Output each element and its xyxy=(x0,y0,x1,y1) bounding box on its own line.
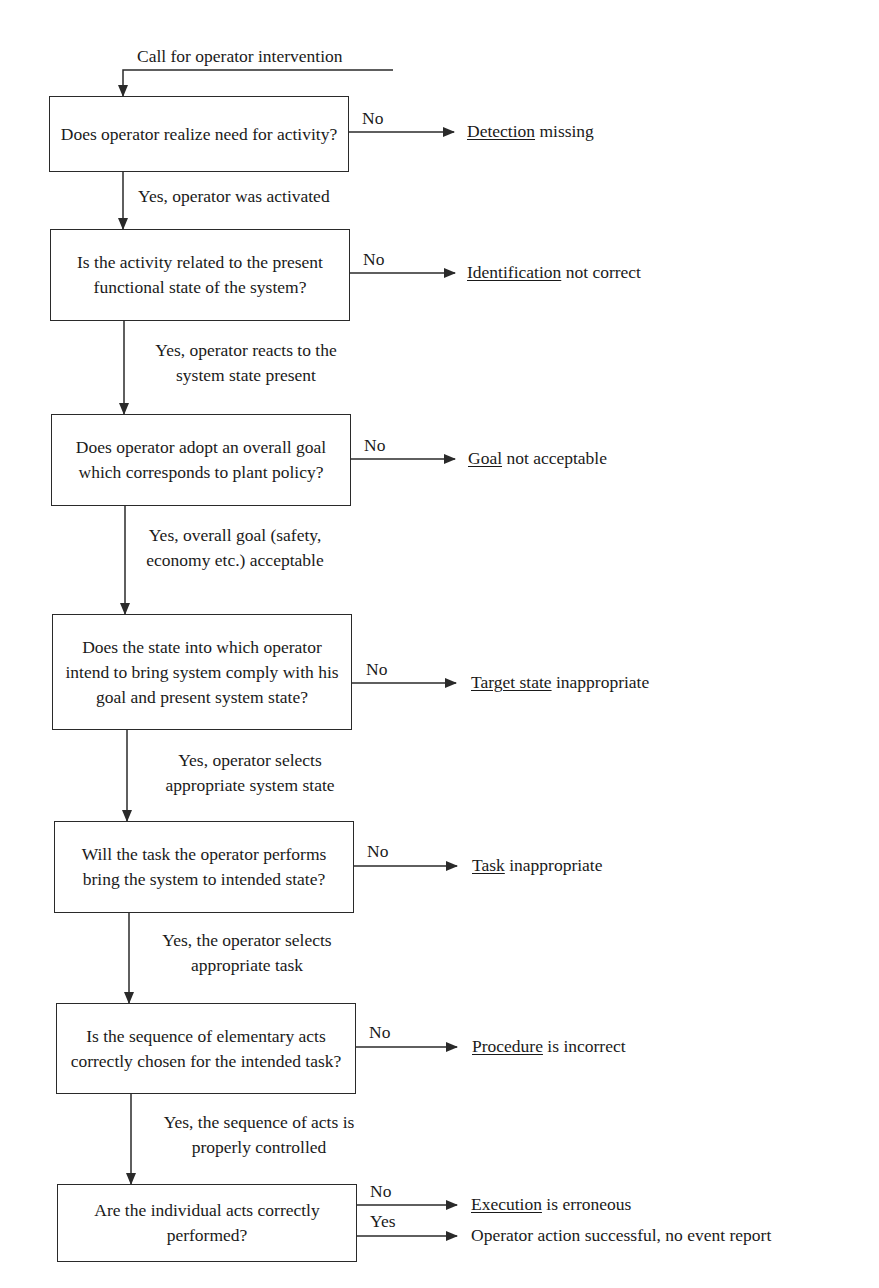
flowchart: Call for operator intervention Does oper… xyxy=(0,0,879,1288)
decision-box-target-state: Does the state into which operator inten… xyxy=(52,614,352,730)
question-text: Is the activity related to the present f… xyxy=(59,250,341,300)
no-label: No xyxy=(367,839,388,864)
decision-box-task: Will the task the operator performs brin… xyxy=(54,821,354,913)
yes-label: Yes, the operator selects appropriate ta… xyxy=(142,928,352,978)
yes-label: Yes, the sequence of acts is properly co… xyxy=(144,1110,374,1160)
no-label: No xyxy=(369,1020,390,1045)
outcome-goal-not-acceptable: Goal not acceptable xyxy=(468,446,607,471)
outcome-target-state-inappropriate: Target state inappropriate xyxy=(471,670,649,695)
outcome-execution-erroneous: Execution is erroneous xyxy=(471,1192,631,1217)
decision-box-detection: Does operator realize need for activity? xyxy=(49,96,349,172)
yes-label: Yes, operator reacts to the system state… xyxy=(138,338,354,388)
entry-label: Call for operator intervention xyxy=(137,44,343,69)
yes-label-final: Yes xyxy=(370,1209,395,1234)
outcome-task-inappropriate: Task inappropriate xyxy=(472,853,602,878)
no-label: No xyxy=(363,247,384,272)
yes-label: Yes, overall goal (safety, economy etc.)… xyxy=(140,523,330,573)
outcome-detection-missing: Detection missing xyxy=(467,119,594,144)
question-text: Are the individual acts correctly perfor… xyxy=(66,1198,348,1248)
decision-box-execution: Are the individual acts correctly perfor… xyxy=(57,1184,357,1262)
outcome-procedure-incorrect: Procedure is incorrect xyxy=(472,1034,626,1059)
no-label: No xyxy=(370,1179,391,1204)
decision-box-goal: Does operator adopt an overall goal whic… xyxy=(51,414,351,506)
question-text: Does operator adopt an overall goal whic… xyxy=(60,435,342,485)
no-label: No xyxy=(362,106,383,131)
question-text: Is the sequence of elementary acts corre… xyxy=(65,1024,347,1074)
decision-box-procedure: Is the sequence of elementary acts corre… xyxy=(56,1003,356,1094)
question-text: Does operator realize need for activity? xyxy=(61,122,337,147)
yes-label: Yes, operator was activated xyxy=(138,184,330,209)
question-text: Does the state into which operator inten… xyxy=(61,635,343,710)
outcome-identification-not-correct: Identification not correct xyxy=(467,260,641,285)
outcome-operator-action-successful: Operator action successful, no event rep… xyxy=(471,1223,771,1248)
yes-label: Yes, operator selects appropriate system… xyxy=(140,748,360,798)
no-label: No xyxy=(364,433,385,458)
entry-arrow xyxy=(123,70,393,96)
decision-box-identification: Is the activity related to the present f… xyxy=(50,229,350,321)
no-label: No xyxy=(366,657,387,682)
question-text: Will the task the operator performs brin… xyxy=(63,842,345,892)
